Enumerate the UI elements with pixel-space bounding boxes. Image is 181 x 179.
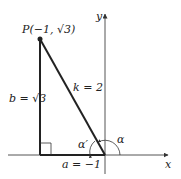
point-p bbox=[38, 37, 43, 42]
angle-alpha-label: α bbox=[117, 133, 125, 146]
reference-angle-arc bbox=[90, 141, 95, 155]
point-label: P(−1, √3) bbox=[21, 23, 75, 36]
reference-angle-label: α′ bbox=[78, 138, 88, 151]
y-axis-label: y bbox=[95, 10, 103, 23]
triangle-diagram: P(−1, √3) k = 2 b = √3 a = −1 x y α α′ bbox=[0, 0, 181, 179]
right-angle-marker bbox=[40, 143, 51, 155]
hypotenuse bbox=[40, 39, 105, 155]
horizontal-leg-label: a = −1 bbox=[62, 158, 101, 171]
hypotenuse-label: k = 2 bbox=[73, 81, 103, 94]
vertical-leg-label: b = √3 bbox=[9, 92, 46, 105]
x-axis-label: x bbox=[165, 158, 172, 171]
